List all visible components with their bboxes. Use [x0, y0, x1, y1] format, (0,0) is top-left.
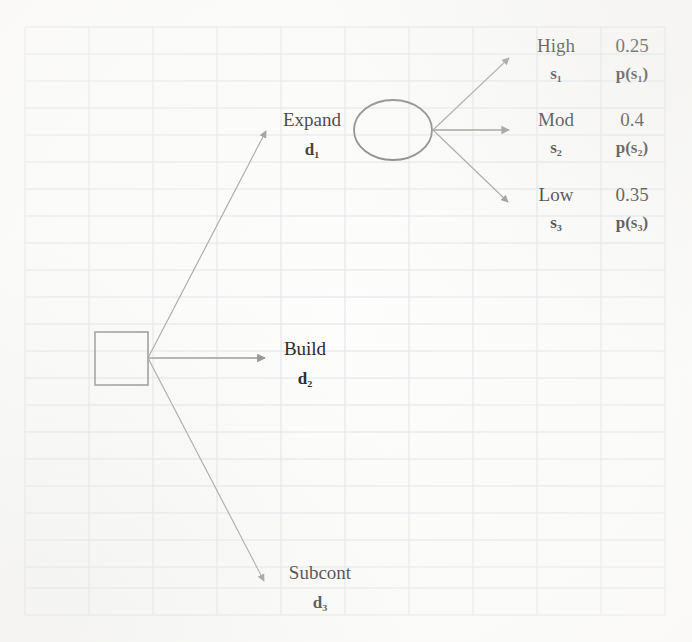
decision-tree-graphic	[0, 0, 692, 642]
branch-high-line	[433, 58, 509, 130]
chance-node-circle[interactable]	[354, 100, 432, 160]
branch-low-line	[433, 130, 508, 202]
branch-expand-line	[148, 131, 266, 358]
branch-subcont-line	[148, 358, 264, 581]
decision-node-square[interactable]	[95, 332, 148, 385]
